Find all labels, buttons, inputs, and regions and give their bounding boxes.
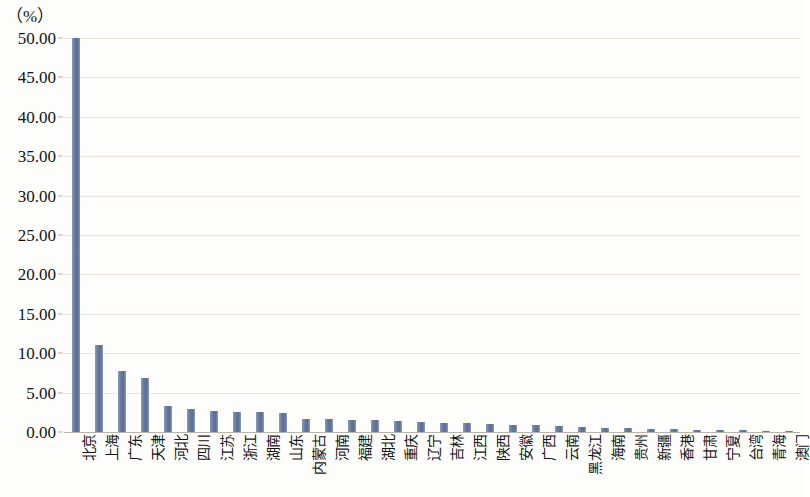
y-axis-tick-mark [58, 432, 63, 433]
bar [578, 427, 586, 432]
y-axis-tick-label: 35.00 [18, 148, 56, 165]
x-axis-tick-label: 广西 [542, 434, 556, 461]
bar [762, 431, 770, 432]
bar [716, 430, 724, 432]
bar [348, 420, 356, 432]
bar [164, 406, 172, 432]
bar [233, 412, 241, 432]
x-axis-tick-label: 香港 [680, 434, 694, 461]
x-axis-tick-label: 重庆 [404, 434, 418, 461]
x-axis-tick-label: 天津 [151, 434, 165, 461]
y-axis-tick-label: 5.00 [26, 384, 56, 401]
y-axis-tick-mark [58, 156, 63, 157]
x-axis-tick-label: 江苏 [220, 434, 234, 461]
bar [785, 431, 793, 432]
bar [486, 424, 494, 432]
x-axis-tick-label: 贵州 [634, 434, 648, 461]
x-axis-tick-label: 新疆 [657, 434, 671, 461]
bar [624, 428, 632, 432]
y-axis-tick-mark [58, 274, 63, 275]
x-axis-tick-label: 辽宁 [427, 434, 441, 461]
bar [256, 412, 264, 432]
y-axis-tick-label: 15.00 [18, 305, 56, 322]
y-axis-tick-mark [58, 116, 63, 117]
bar [210, 411, 218, 432]
bar [302, 419, 310, 432]
y-axis-tick-mark [58, 392, 63, 393]
x-axis-category-labels: 北京上海广东天津河北四川江苏浙江湖南山东内蒙古河南福建湖北重庆辽宁吉林江西陕西安… [64, 434, 800, 497]
y-axis-tick-mark [58, 77, 63, 78]
bar [463, 423, 471, 432]
x-axis-tick-label: 广东 [128, 434, 142, 461]
y-axis-tick-labels: 50.0045.0040.0035.0030.0025.0020.0015.00… [0, 38, 62, 432]
x-axis-tick-label: 四川 [197, 434, 211, 461]
bar [739, 430, 747, 432]
y-axis-tick-label: 40.00 [18, 108, 56, 125]
y-axis-tick-mark [58, 38, 63, 39]
bar [509, 425, 517, 432]
x-axis-tick-label: 河南 [335, 434, 349, 461]
y-axis-tick-label: 45.00 [18, 69, 56, 86]
bar [670, 429, 678, 432]
bar [371, 420, 379, 432]
bar [95, 345, 103, 432]
x-axis-tick-label: 吉林 [450, 434, 464, 461]
bar [440, 423, 448, 432]
bar [118, 371, 126, 432]
bar [532, 425, 540, 432]
x-axis-tick-label: 北京 [82, 434, 96, 461]
x-axis-tick-label: 青海 [772, 434, 786, 461]
y-axis-tick-label: 25.00 [18, 227, 56, 244]
gridline [64, 432, 800, 433]
x-axis-tick-label: 上海 [105, 434, 119, 461]
bar [601, 428, 609, 432]
x-axis-tick-label: 海南 [611, 434, 625, 461]
x-axis-tick-label: 云南 [565, 434, 579, 461]
x-axis-tick-label: 黑龙江 [588, 434, 602, 475]
y-axis-tick-label: 0.00 [26, 424, 56, 441]
bar [141, 378, 149, 432]
y-axis-tick-mark [58, 235, 63, 236]
x-axis-tick-label: 甘肃 [703, 434, 717, 461]
x-axis-tick-label: 福建 [358, 434, 372, 461]
bar [394, 421, 402, 432]
x-axis-tick-label: 澳门 [795, 434, 809, 461]
x-axis-tick-label: 山东 [289, 434, 303, 461]
y-axis-unit-label: （%） [6, 2, 54, 27]
x-axis-tick-label: 江西 [473, 434, 487, 461]
y-axis-tick-label: 50.00 [18, 30, 56, 47]
y-axis-tick-label: 20.00 [18, 266, 56, 283]
bar [72, 38, 80, 432]
x-axis-tick-label: 湖北 [381, 434, 395, 461]
bar [187, 409, 195, 432]
y-axis-tick-mark [58, 195, 63, 196]
y-axis-tick-label: 10.00 [18, 345, 56, 362]
x-axis-tick-label: 内蒙古 [312, 434, 326, 475]
bar [325, 419, 333, 432]
plot-area [64, 38, 800, 432]
y-axis-tick-mark [58, 353, 63, 354]
bar [647, 429, 655, 432]
bar [555, 426, 563, 432]
y-axis-tick-label: 30.00 [18, 187, 56, 204]
y-axis-tick-mark [58, 313, 63, 314]
bar [417, 422, 425, 432]
bar-series [64, 38, 800, 432]
x-axis-tick-label: 安徽 [519, 434, 533, 461]
x-axis-tick-label: 河北 [174, 434, 188, 461]
x-axis-tick-label: 浙江 [243, 434, 257, 461]
x-axis-tick-label: 台湾 [749, 434, 763, 461]
x-axis-tick-label: 陕西 [496, 434, 510, 461]
bar [693, 430, 701, 432]
x-axis-tick-label: 湖南 [266, 434, 280, 461]
x-axis-tick-label: 宁夏 [726, 434, 740, 461]
bar [279, 413, 287, 432]
